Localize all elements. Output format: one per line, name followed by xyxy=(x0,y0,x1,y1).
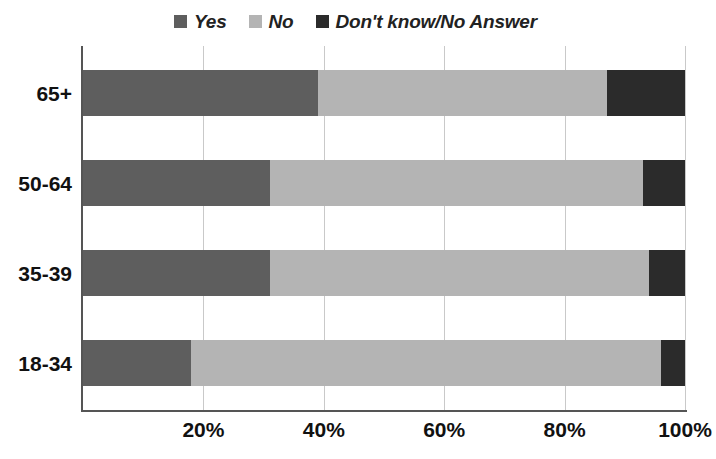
legend-label-no: No xyxy=(269,12,294,31)
bar-segment xyxy=(83,160,270,206)
legend-item-no: No xyxy=(249,12,294,31)
x-axis-tick-label: 100% xyxy=(640,419,716,440)
x-axis-tick-label: 80% xyxy=(520,419,610,440)
bar-segment xyxy=(270,160,643,206)
legend-item-dont-know: Don't know/No Answer xyxy=(316,12,537,31)
legend-swatch-yes-icon xyxy=(174,15,187,28)
legend-item-yes: Yes xyxy=(174,12,227,31)
y-axis-label: 50-64 xyxy=(0,173,72,194)
x-axis-tick-label: 40% xyxy=(279,419,369,440)
bar-segment xyxy=(83,70,318,116)
bar-segment xyxy=(318,70,607,116)
legend-label-yes: Yes xyxy=(194,12,227,31)
x-axis-line xyxy=(81,410,687,412)
bar-segment xyxy=(83,250,270,296)
bar-segment xyxy=(643,160,685,206)
x-axis-tick-label: 60% xyxy=(399,419,489,440)
bar-row xyxy=(83,340,685,386)
bar-row xyxy=(83,70,685,116)
bar-segment xyxy=(607,70,685,116)
legend-swatch-no-icon xyxy=(249,15,262,28)
gridline-100 xyxy=(685,46,686,410)
legend-swatch-dont-know-icon xyxy=(316,15,329,28)
bar-segment xyxy=(661,340,685,386)
bar-row xyxy=(83,250,685,296)
y-axis-label: 65+ xyxy=(0,83,72,104)
chart-plot-area xyxy=(83,46,685,410)
bar-segment xyxy=(191,340,661,386)
bar-row xyxy=(83,160,685,206)
x-axis-tick-label: 20% xyxy=(158,419,248,440)
y-axis-label: 35-39 xyxy=(0,263,72,284)
bar-segment xyxy=(649,250,685,296)
chart-legend: Yes No Don't know/No Answer xyxy=(0,6,711,36)
y-axis-label: 18-34 xyxy=(0,353,72,374)
bar-segment xyxy=(270,250,649,296)
bar-segment xyxy=(83,340,191,386)
legend-label-dont-know: Don't know/No Answer xyxy=(336,12,537,31)
